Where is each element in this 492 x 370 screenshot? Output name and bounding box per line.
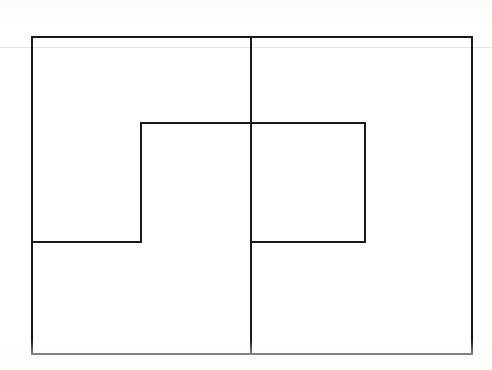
figure-canvas <box>0 0 492 370</box>
line-drawing-svg <box>0 0 492 370</box>
